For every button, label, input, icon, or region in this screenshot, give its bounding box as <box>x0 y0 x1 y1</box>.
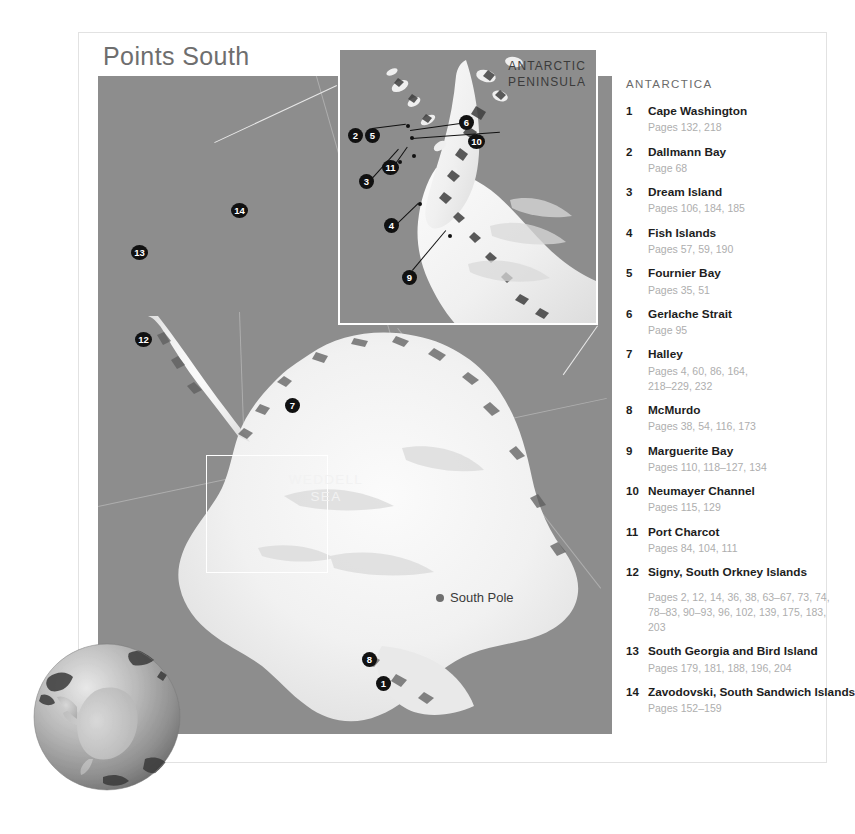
inset-marker-6[interactable]: 6 <box>459 115 474 130</box>
legend-number: 1 <box>626 104 648 136</box>
map-marker-7[interactable]: 7 <box>285 398 300 413</box>
inset-marker-3[interactable]: 3 <box>359 174 374 189</box>
inset-tick-3 <box>398 160 402 164</box>
map-marker-13[interactable]: 13 <box>131 245 148 260</box>
legend-name: Dream Island <box>648 185 831 200</box>
legend-item-14[interactable]: 14 Zavodovski, South Sandwich Islands Pa… <box>626 685 831 717</box>
inset-title-line1: ANTARCTIC <box>476 58 586 74</box>
sea-label-line2: SEA <box>278 489 374 506</box>
globe-inset <box>33 643 181 791</box>
legend-name: Neumayer Channel <box>648 484 831 499</box>
legend-name: Fish Islands <box>648 226 831 241</box>
legend-pages: Pages 35, 51 <box>648 283 831 298</box>
map-marker-8[interactable]: 8 <box>362 652 377 667</box>
legend-title: ANTARCTICA <box>626 78 831 90</box>
south-pole-marker: South Pole <box>436 590 514 605</box>
legend-item-6[interactable]: 6 Gerlache Strait Page 95 <box>626 307 831 339</box>
legend-pages: Page 95 <box>648 323 831 338</box>
inset-marker-4[interactable]: 4 <box>384 218 399 233</box>
legend-item-1[interactable]: 1 Cape Washington Pages 132, 218 <box>626 104 831 136</box>
legend-pages: Pages 38, 54, 116, 173 <box>648 419 831 434</box>
legend-number: 8 <box>626 403 648 435</box>
legend-number: 12 <box>626 565 648 635</box>
legend-pages: Pages 110, 118–127, 134 <box>648 460 831 475</box>
legend-pages: Page 68 <box>648 161 831 176</box>
legend-number: 5 <box>626 266 648 298</box>
legend-name: Marguerite Bay <box>648 444 831 459</box>
legend-pages: Pages 106, 184, 185 <box>648 201 831 216</box>
legend-name: Fournier Bay <box>648 266 831 281</box>
legend-pages: Pages 132, 218 <box>648 120 831 135</box>
inset-map-antarctic-peninsula[interactable]: ANTARCTIC PENINSULA 2 5 6 10 11 3 4 9 <box>338 48 598 325</box>
inset-landmass <box>340 50 598 325</box>
legend-pages: Pages 57, 59, 190 <box>648 242 831 257</box>
legend-number: 10 <box>626 484 648 516</box>
legend-item-13[interactable]: 13 South Georgia and Bird Island Pages 1… <box>626 644 831 676</box>
legend-pages: Pages 115, 129 <box>648 500 831 515</box>
legend-name: McMurdo <box>648 403 831 418</box>
legend-number: 2 <box>626 145 648 177</box>
inset-tick-6 <box>410 136 414 140</box>
legend-pages: Pages 84, 104, 111 <box>648 541 831 556</box>
legend-number: 7 <box>626 347 648 394</box>
legend-number: 3 <box>626 185 648 217</box>
legend-item-5[interactable]: 5 Fournier Bay Pages 35, 51 <box>626 266 831 298</box>
legend-name: Halley <box>648 347 831 362</box>
inset-tick-4 <box>418 202 422 206</box>
legend-item-7[interactable]: 7 Halley Pages 4, 60, 86, 164, 218–229, … <box>626 347 831 394</box>
legend-item-12[interactable]: 12 Signy, South Orkney Islands Pages 2, … <box>626 565 831 635</box>
legend-name: Gerlache Strait <box>648 307 831 322</box>
legend-pages: Pages 152–159 <box>648 701 855 716</box>
legend-number: 4 <box>626 226 648 258</box>
antarctica-landmass <box>134 316 594 734</box>
legend-name: Cape Washington <box>648 104 831 119</box>
south-pole-dot <box>436 594 444 602</box>
legend-pages: Pages 2, 12, 14, 36, 38, 63–67, 73, 74, … <box>648 590 831 636</box>
south-pole-label: South Pole <box>450 590 514 605</box>
page-title: Points South <box>103 42 250 71</box>
inset-tick-2 <box>406 124 410 128</box>
legend-number: 6 <box>626 307 648 339</box>
legend-item-4[interactable]: 4 Fish Islands Pages 57, 59, 190 <box>626 226 831 258</box>
legend-name: Zavodovski, South Sandwich Islands <box>648 685 855 700</box>
legend-item-8[interactable]: 8 McMurdo Pages 38, 54, 116, 173 <box>626 403 831 435</box>
legend-name: South Georgia and Bird Island <box>648 644 831 659</box>
legend-number: 13 <box>626 644 648 676</box>
map-marker-12[interactable]: 12 <box>135 332 152 347</box>
map-marker-1[interactable]: 1 <box>376 676 391 691</box>
map-marker-14[interactable]: 14 <box>231 203 248 218</box>
legend-number: 14 <box>626 685 648 717</box>
legend-number: 9 <box>626 444 648 476</box>
legend-pages: Pages 179, 181, 188, 196, 204 <box>648 661 831 676</box>
inset-tick-11 <box>412 154 416 158</box>
legend-number: 11 <box>626 525 648 557</box>
inset-tick-9 <box>448 234 452 238</box>
legend-item-3[interactable]: 3 Dream Island Pages 106, 184, 185 <box>626 185 831 217</box>
inset-marker-10[interactable]: 10 <box>468 134 485 149</box>
legend-item-10[interactable]: 10 Neumayer Channel Pages 115, 129 <box>626 484 831 516</box>
legend-panel: ANTARCTICA 1 Cape Washington Pages 132, … <box>626 78 831 725</box>
legend-item-9[interactable]: 9 Marguerite Bay Pages 110, 118–127, 134 <box>626 444 831 476</box>
inset-marker-9[interactable]: 9 <box>402 270 417 285</box>
inset-marker-11[interactable]: 11 <box>382 160 399 175</box>
legend-name: Dallmann Bay <box>648 145 831 160</box>
sea-label-weddell: WEDDELL SEA <box>278 472 374 506</box>
legend-name: Signy, South Orkney Islands <box>648 565 831 580</box>
inset-marker-5[interactable]: 5 <box>365 128 380 143</box>
legend-item-2[interactable]: 2 Dallmann Bay Page 68 <box>626 145 831 177</box>
inset-title-line2: PENINSULA <box>476 74 586 90</box>
legend-name: Port Charcot <box>648 525 831 540</box>
sea-label-line1: WEDDELL <box>278 472 374 489</box>
legend-pages: Pages 4, 60, 86, 164, 218–229, 232 <box>648 364 766 394</box>
inset-marker-2[interactable]: 2 <box>348 128 363 143</box>
inset-map-title: ANTARCTIC PENINSULA <box>476 58 586 90</box>
legend-item-11[interactable]: 11 Port Charcot Pages 84, 104, 111 <box>626 525 831 557</box>
